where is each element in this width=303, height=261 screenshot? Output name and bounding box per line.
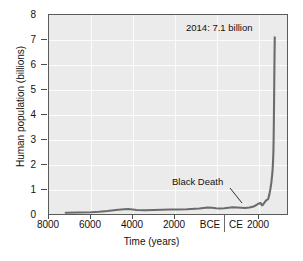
y-tick-label-2: 2 (30, 160, 36, 170)
y-tick-label-8: 8 (30, 10, 36, 20)
y-tick-label-3: 3 (30, 135, 36, 145)
x-tick-label-2000: 2000 (161, 219, 187, 230)
y-tick-label-5: 5 (30, 85, 36, 95)
y-tick-label-4: 4 (30, 110, 36, 120)
y-tick-mark-2 (41, 164, 47, 165)
annotation-black-death-label: Black Death (172, 176, 223, 187)
y-tick-mark-7 (41, 39, 47, 40)
y-tick-mark-5 (41, 89, 47, 90)
y-tick-mark-6 (41, 64, 47, 65)
x-tick-label-4000: 4000 (119, 219, 145, 230)
x-tick-label-6000: 6000 (77, 219, 103, 230)
era-divider-line (224, 215, 225, 232)
y-tick-mark-3 (41, 139, 47, 140)
x-tick-label-ce: CE (226, 219, 246, 230)
x-tick-label-8000: 8000 (35, 219, 61, 230)
x-tick-label-2000ce: 2000 (245, 219, 271, 230)
plot-area (48, 14, 288, 215)
population-growth-chart: 8 7 6 5 4 3 2 1 0 Human population (bill… (0, 0, 303, 261)
y-tick-label-6: 6 (30, 60, 36, 70)
y-tick-label-7: 7 (30, 35, 36, 45)
y-tick-mark-4 (41, 114, 47, 115)
y-tick-mark-1 (41, 189, 47, 190)
y-tick-label-1: 1 (30, 185, 36, 195)
y-axis-title: Human population (billions) (15, 7, 26, 207)
annotation-peak-label: 2014: 7.1 billion (186, 22, 253, 33)
x-axis-title: Time (years) (0, 236, 303, 247)
population-curve (49, 15, 287, 214)
x-tick-label-bce: BCE (197, 219, 223, 230)
